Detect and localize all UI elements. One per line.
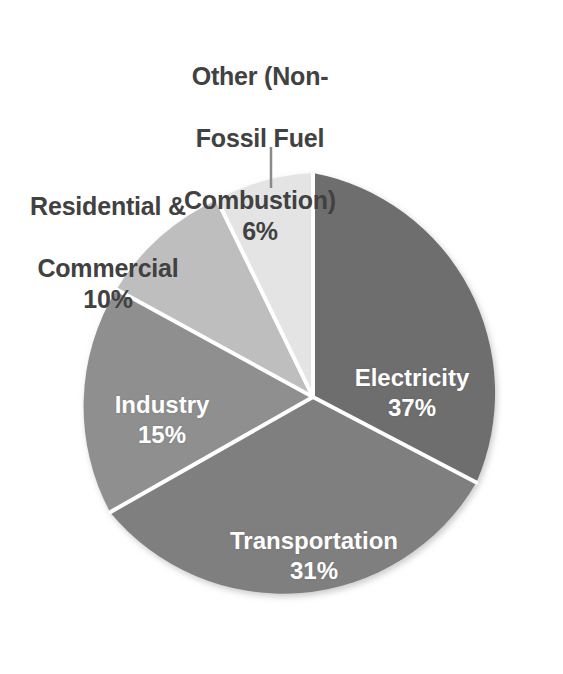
slice-label-industry-percent: 15% <box>82 420 242 450</box>
slice-label-electricity-percent: 37% <box>322 393 502 423</box>
slice-label-industry-text: Industry <box>115 391 210 418</box>
pie-chart: Other (Non- Fossil Fuel Combustion) 6% R… <box>0 0 563 674</box>
slice-callout-residential-commercial-line1: Residential & <box>30 192 186 220</box>
slice-callout-residential-commercial-percent: 10% <box>8 284 208 315</box>
slice-label-electricity: Electricity 37% <box>322 333 502 453</box>
slice-callout-other-line1: Other (Non- <box>192 62 329 90</box>
slice-label-transportation-text: Transportation <box>230 527 398 554</box>
slice-callout-other-line2: Fossil Fuel <box>196 124 324 152</box>
slice-label-electricity-text: Electricity <box>355 364 470 391</box>
slice-callout-residential-commercial: Residential & Commercial 10% <box>8 160 208 346</box>
slice-label-transportation-percent: 31% <box>204 556 424 586</box>
slice-label-industry: Industry 15% <box>82 360 242 480</box>
slice-callout-residential-commercial-line2: Commercial <box>37 254 178 282</box>
slice-label-transportation: Transportation 31% <box>204 496 424 616</box>
